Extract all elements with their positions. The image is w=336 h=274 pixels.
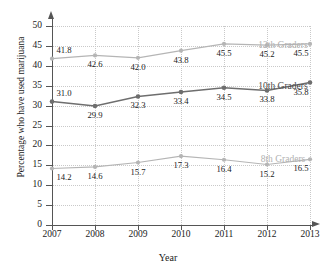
data-point-label: 14.6 [75,172,115,181]
data-point-label: 41.8 [44,46,84,55]
data-point-marker [93,53,97,57]
data-point-label: 16.4 [204,165,244,174]
data-point-marker [50,99,55,104]
y-axis-tick [46,66,52,67]
data-point-marker [136,56,140,60]
y-axis-tick [46,26,52,27]
data-point-label: 43.8 [161,56,201,65]
data-point-label: 34.5 [204,93,244,102]
y-axis-tick-label: 15 [12,160,42,170]
y-axis-tick [46,126,52,127]
data-point-label: 33.4 [161,97,201,106]
y-axis-tick-label: 40 [12,61,42,71]
series-label-10th-graders: 10th Graders [238,82,328,92]
data-point-marker [222,158,226,162]
data-point-label: 42.6 [75,60,115,69]
data-point-label: 17.3 [161,161,201,170]
y-axis-tick [46,205,52,206]
y-axis-tick-label: 20 [12,140,42,150]
y-axis-tick-label: 0 [12,220,42,230]
y-axis-tick-label: 45 [12,41,42,51]
y-axis-tick-label: 30 [12,101,42,111]
x-axis-tick-label: 2009 [118,230,158,240]
x-axis-tick-label: 2011 [204,230,244,240]
y-axis-tick-label: 5 [12,200,42,210]
y-axis-tick-label: 35 [12,81,42,91]
x-axis-tick-label: 2007 [32,230,72,240]
data-point-marker [136,94,141,99]
data-point-marker [50,57,54,61]
data-point-label: 29.9 [75,111,115,120]
y-axis-tick-label: 25 [12,121,42,131]
y-axis-tick [46,86,52,87]
y-axis-tick-label: 10 [12,180,42,190]
data-point-label: 16.5 [281,164,321,173]
series-label-8th-graders: 8th Graders [238,155,328,165]
y-axis-tick [46,106,52,107]
data-point-label: 32.3 [118,101,158,110]
x-axis-tick-label: 2012 [247,230,287,240]
data-point-label: 42.0 [118,63,158,72]
data-point-marker [179,49,183,53]
x-axis-tick-label: 2008 [75,230,115,240]
data-point-label: 31.0 [44,89,84,98]
data-point-marker [136,160,140,164]
x-axis-tick-label: 2013 [290,230,330,240]
y-axis-tick [46,165,52,166]
data-point-marker [179,90,184,95]
y-axis-tick-label: 50 [12,21,42,31]
data-point-label: 15.7 [118,168,158,177]
data-point-marker [93,104,98,109]
x-axis-tick-label: 2010 [161,230,201,240]
data-point-marker [222,85,227,90]
data-point-marker [179,154,183,158]
data-point-marker [222,42,226,46]
data-point-marker [50,166,54,170]
data-point-marker [93,165,97,169]
data-point-label: 33.8 [247,95,287,104]
series-label-12th-graders: 12th Graders [238,41,328,51]
y-axis-tick [46,145,52,146]
marijuana-use-line-chart: Percentage who have used marijuana Year … [0,0,336,274]
y-axis-tick [46,185,52,186]
